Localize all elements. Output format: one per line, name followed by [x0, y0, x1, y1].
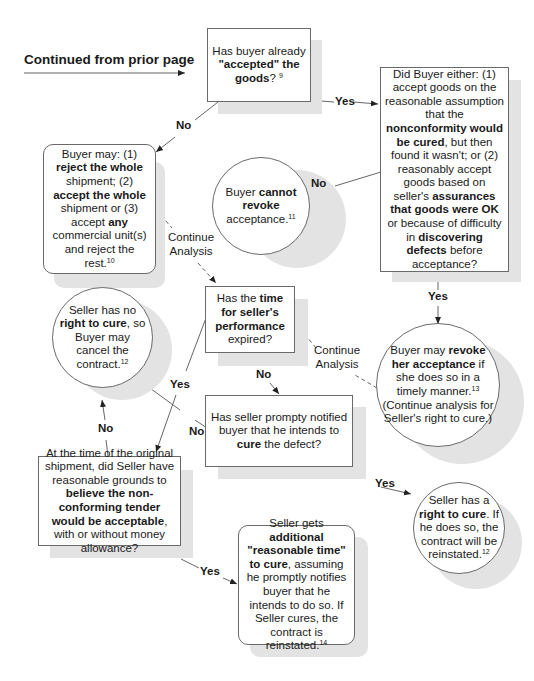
- edge-label-accepted-no: No: [176, 119, 191, 131]
- continue-analysis-label-1: Continue Analysis: [168, 230, 214, 258]
- continue-analysis-line2: Analysis: [314, 357, 360, 371]
- edge-label-notified-yes: Yes: [375, 477, 395, 489]
- node-text: Did Buyer either: (1) accept goods on th…: [381, 68, 508, 272]
- decision-did-buyer-either: Did Buyer either: (1) accept goods on th…: [380, 67, 509, 272]
- decision-original-shipment: At the time of the original shipment, di…: [38, 456, 181, 546]
- edge-label-time-yes: Yes: [170, 378, 190, 390]
- outcome-right-to-cure: Seller has a right to cure. If he does s…: [413, 482, 505, 574]
- outcome-no-right-to-cure: Seller has no right to cure, so Buyer ma…: [52, 287, 153, 388]
- edge-label-original-no: No: [98, 422, 113, 434]
- edge-label-original-yes: Yes: [200, 565, 220, 577]
- node-text: Buyer may: (1) reject the whole shipment…: [44, 148, 155, 270]
- edge-label-did-buyer-yes: Yes: [428, 290, 448, 302]
- node-text: Has buyer already "accepted" the goods? …: [208, 45, 310, 86]
- continue-analysis-label-2: Continue Analysis: [314, 343, 360, 371]
- node-text: Buyer may revoke her acceptance if she d…: [377, 344, 499, 426]
- outcome-cannot-revoke: Buyer cannot revoke acceptance.11: [212, 157, 310, 255]
- continue-analysis-line1: Continue: [314, 343, 360, 357]
- edge-label-did-buyer-no: No: [311, 177, 326, 189]
- node-text: At the time of the original shipment, di…: [39, 447, 180, 556]
- edge-label-notified-no: No: [189, 425, 204, 437]
- decision-accepted-goods: Has buyer already "accepted" the goods? …: [207, 28, 311, 102]
- outcome-buyer-may-reject: Buyer may: (1) reject the whole shipment…: [43, 144, 156, 274]
- edge-label-accepted-yes: Yes: [335, 95, 355, 107]
- node-text: Seller has a right to cure. If he does s…: [414, 494, 504, 562]
- node-text: Buyer cannot revoke acceptance.11: [213, 186, 309, 227]
- outcome-may-revoke: Buyer may revoke her acceptance if she d…: [376, 323, 500, 447]
- continued-from-prior-page-heading: Continued from prior page: [24, 52, 194, 67]
- node-text: Seller has no right to cure, so Buyer ma…: [53, 304, 152, 372]
- continue-analysis-line2: Analysis: [168, 244, 214, 258]
- decision-time-expired: Has the time for seller's performance ex…: [205, 286, 295, 353]
- node-text: Has seller prompty notified buyer that h…: [206, 411, 352, 452]
- continue-analysis-line1: Continue: [168, 230, 214, 244]
- outcome-additional-time: Seller gets additional "reasonable time"…: [238, 525, 355, 645]
- node-text: Has the time for seller's performance ex…: [206, 292, 294, 346]
- node-text: Seller gets additional "reasonable time"…: [239, 517, 354, 653]
- decision-notified-buyer: Has seller prompty notified buyer that h…: [205, 395, 353, 467]
- edge-label-time-no: No: [256, 368, 271, 380]
